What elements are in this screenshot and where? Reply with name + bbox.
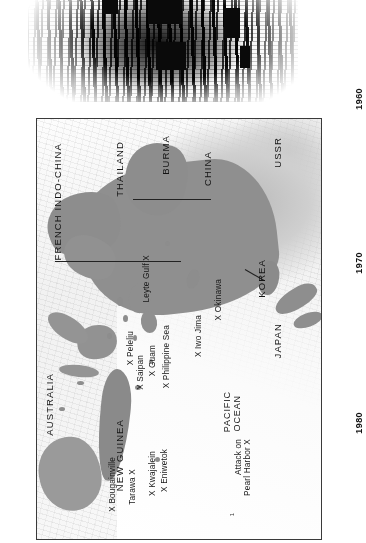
battle-marker-guam: X Guam xyxy=(149,345,158,376)
battle-marker-tarawa: Tarawa X xyxy=(129,469,138,505)
battle-marker-peleliu: X Peleliu xyxy=(127,331,136,365)
footnote-marker: 1 xyxy=(229,513,235,516)
battle-marker-kwajalein: X Kwajalein xyxy=(149,451,158,496)
island-dot xyxy=(59,407,65,411)
battle-marker-iwo-jima: X Iwo Jima xyxy=(195,315,204,357)
photo-dark-blob xyxy=(240,46,250,68)
timeline-year-1980: 1980 xyxy=(354,412,364,434)
halftone-photograph xyxy=(28,0,298,102)
island-dot xyxy=(77,381,84,385)
battle-marker-philippine-sea: X Philippine Sea xyxy=(163,325,172,388)
battle-marker-okinawa: X Okinawa xyxy=(215,279,224,320)
photo-dark-blob xyxy=(148,0,182,24)
map-label-korea: KOREA xyxy=(257,259,267,298)
island-dot xyxy=(123,315,128,322)
island-dot xyxy=(165,241,170,246)
battle-marker-pearl-harbor: Attack on Pearl Harbor X xyxy=(235,439,253,496)
photo-dark-blob xyxy=(224,8,240,38)
timeline-year-1970: 1970 xyxy=(354,252,364,274)
battle-marker-pearl-harbor-text: Attack on Pearl Harbor X xyxy=(234,439,252,496)
leader-line-indochina xyxy=(55,261,181,262)
map-label-china: CHINA xyxy=(203,151,213,186)
map-label-pacific-ocean-line2: OCEAN xyxy=(233,395,243,432)
battle-marker-leyte-gulf: Leyte Gulf X xyxy=(143,255,152,302)
photo-dark-blob xyxy=(102,0,118,14)
battle-marker-bougainville: X Bougainville xyxy=(109,457,118,512)
map-label-thailand: THAILAND xyxy=(115,141,125,197)
map-label-french-indochina: FRENCH INDO-CHINA xyxy=(53,143,63,260)
island-dot xyxy=(117,297,123,306)
map-label-australia: AUSTRALIA xyxy=(45,373,55,436)
photo-dark-blob xyxy=(156,42,186,70)
map-label-japan: JAPAN xyxy=(273,323,283,358)
map-label-burma: BURMA xyxy=(161,135,171,175)
pacific-theater-map: USSR CHINA BURMA THAILAND FRENCH INDO-CH… xyxy=(36,118,322,540)
leader-line-thailand xyxy=(133,199,211,200)
battle-marker-eniwetok: X Eniwetok xyxy=(161,449,170,492)
map-label-ussr: USSR xyxy=(273,137,283,168)
battle-marker-saipan: X Saipan xyxy=(137,355,146,390)
timeline-year-1960: 1960 xyxy=(354,88,364,110)
island-dot xyxy=(107,333,112,339)
scanned-page: 1960 1970 1980 U xyxy=(0,0,366,543)
